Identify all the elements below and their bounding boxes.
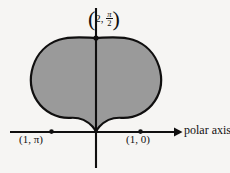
point-label-top: (2, π2)	[88, 10, 120, 29]
point-label-left: (1, π)	[19, 134, 43, 145]
left-paren-glyph: (	[88, 10, 95, 28]
point-label-top-separator: ,	[101, 12, 104, 24]
right-arrow-icon	[174, 128, 183, 137]
polar-axis-label: polar axis	[184, 124, 230, 136]
right-paren-glyph: )	[113, 10, 120, 28]
polar-cardioid-figure: (2, π2) (1, π) (1, 0) polar axis	[0, 0, 230, 173]
point-label-right: (1, 0)	[126, 134, 150, 145]
point-label-top-body: 2, π2	[95, 10, 112, 29]
point-marker-left	[49, 129, 54, 134]
point-marker-top	[93, 35, 98, 40]
